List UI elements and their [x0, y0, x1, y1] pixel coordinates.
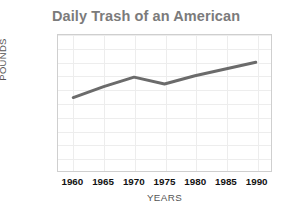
- x-axis-label: YEARS: [57, 192, 272, 203]
- x-axis-tick-1990: 1990: [240, 176, 274, 187]
- x-axis-tick-1960: 1960: [55, 176, 89, 187]
- y-axis-label: POUNDS: [0, 25, 8, 95]
- x-axis-tick-1965: 1965: [86, 176, 120, 187]
- x-axis-tick-1970: 1970: [117, 176, 151, 187]
- line-path: [73, 62, 256, 97]
- x-axis-tick-labels: 1960196519701975198019851990: [57, 176, 272, 190]
- x-axis-tick-1985: 1985: [209, 176, 243, 187]
- chart-title: Daily Trash of an American: [0, 8, 292, 24]
- x-axis-tick-1975: 1975: [148, 176, 182, 187]
- data-series-line: [58, 35, 271, 171]
- chart-figure: Daily Trash of an American POUNDS 5.04.5…: [0, 0, 292, 218]
- x-axis-tick-1980: 1980: [178, 176, 212, 187]
- plot-area: [57, 34, 272, 172]
